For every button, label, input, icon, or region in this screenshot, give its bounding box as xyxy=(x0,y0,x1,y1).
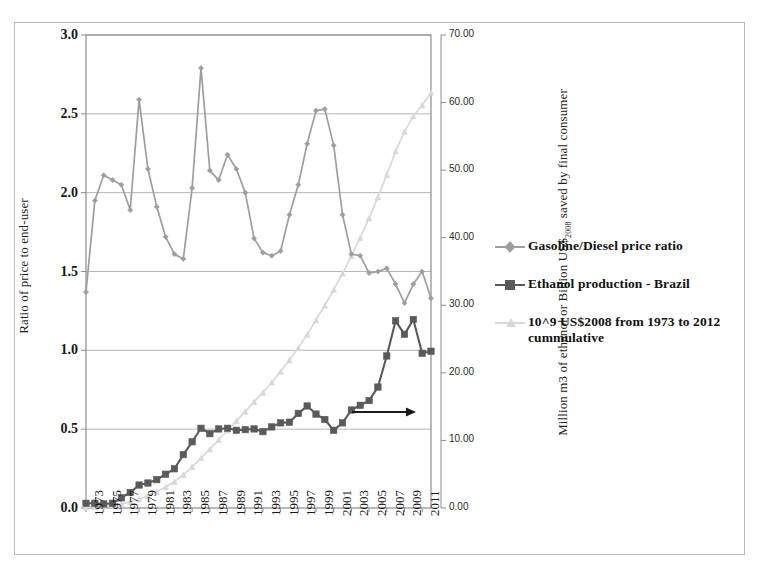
data-point-marker xyxy=(198,425,204,431)
data-point-marker xyxy=(190,185,195,190)
x-axis-tick-label: 1991 xyxy=(250,490,266,516)
legend-marker-shape xyxy=(506,318,516,327)
x-axis-tick-label: 1987 xyxy=(215,490,231,516)
data-point-marker xyxy=(136,97,141,102)
data-point-marker xyxy=(295,410,301,416)
data-point-marker xyxy=(366,397,372,403)
y-axis-left-tick-label: 2.0 xyxy=(38,185,78,201)
data-point-marker xyxy=(366,215,372,221)
y-axis-left-tick-label: 2.5 xyxy=(38,106,78,122)
legend-item[interactable]: 10^9 US$2008 from 1973 to 2012 cummulati… xyxy=(495,314,740,346)
data-point-marker xyxy=(339,420,345,426)
x-axis-tick-label: 1993 xyxy=(268,490,284,516)
data-point-marker xyxy=(286,419,292,425)
x-axis-tick-label: 2005 xyxy=(374,490,390,516)
y-axis-right-tick-label: 40.00 xyxy=(449,231,493,242)
data-point-marker xyxy=(322,416,328,422)
x-axis-tick-label: 2003 xyxy=(356,490,372,516)
data-point-marker xyxy=(428,90,434,96)
data-point-marker xyxy=(428,296,433,301)
data-point-marker xyxy=(304,403,310,409)
data-point-marker xyxy=(287,212,292,217)
data-point-marker xyxy=(428,348,434,354)
y-axis-right-tick-label: 20.00 xyxy=(449,366,493,377)
y-axis-right-tick-label: 60.00 xyxy=(449,96,493,107)
data-point-marker xyxy=(233,427,239,433)
data-point-marker xyxy=(215,426,221,432)
data-point-marker xyxy=(331,143,336,148)
data-point-marker xyxy=(92,198,97,203)
data-point-marker xyxy=(375,384,381,390)
x-axis-tick-label: 2011 xyxy=(427,490,443,516)
data-point-marker xyxy=(401,331,407,337)
legend-marker-icon xyxy=(495,240,525,254)
data-point-marker xyxy=(260,428,266,434)
y-axis-left-tick-label: 0.5 xyxy=(38,421,78,437)
x-axis-tick-label: 2009 xyxy=(409,490,425,516)
data-point-marker xyxy=(198,66,203,71)
legend-marker-icon xyxy=(495,278,525,292)
data-point-marker xyxy=(393,148,399,154)
data-point-marker xyxy=(83,289,88,294)
data-point-marker xyxy=(410,316,416,322)
y-axis-right-tick-label: 0.00 xyxy=(449,501,493,512)
x-axis-tick-label: 1983 xyxy=(179,490,195,516)
x-axis-tick-label: 1977 xyxy=(126,490,142,516)
x-axis-tick-label: 1979 xyxy=(144,490,160,516)
data-point-marker xyxy=(384,353,390,359)
data-point-marker xyxy=(189,439,195,445)
y-axis-left-tick-label: 0.0 xyxy=(38,500,78,516)
data-point-marker xyxy=(277,420,283,426)
x-axis-tick-label: 1985 xyxy=(197,490,213,516)
data-point-marker xyxy=(145,480,151,486)
data-point-marker xyxy=(224,425,230,431)
data-point-marker xyxy=(305,141,310,146)
data-point-marker xyxy=(296,182,301,187)
data-point-marker xyxy=(162,471,168,477)
data-point-marker xyxy=(402,300,407,305)
data-point-marker xyxy=(83,500,89,506)
data-point-marker xyxy=(419,350,425,356)
data-point-marker xyxy=(375,194,381,200)
data-point-marker xyxy=(171,466,177,472)
y-axis-left-tick-label: 1.5 xyxy=(38,264,78,280)
x-axis-tick-label: 2007 xyxy=(392,490,408,516)
legend-marker-shape xyxy=(505,280,515,290)
annotation-arrow-head xyxy=(406,408,416,417)
y-axis-right-tick-label: 70.00 xyxy=(449,28,493,39)
data-point-marker xyxy=(269,424,275,430)
y-axis-right-tick-label: 50.00 xyxy=(449,163,493,174)
y-axis-left-tick-label: 1.0 xyxy=(38,342,78,358)
x-axis-tick-label: 2001 xyxy=(339,490,355,516)
data-point-marker xyxy=(154,204,159,209)
legend-item[interactable]: Gasoline/Diesel price ratio xyxy=(495,238,740,254)
chart-figure: Ratio of price to end-user Million m3 of… xyxy=(0,0,761,576)
data-point-marker xyxy=(313,108,318,113)
legend-marker-icon xyxy=(495,316,525,330)
data-point-marker xyxy=(357,235,363,241)
legend-item-label: Gasoline/Diesel price ratio xyxy=(528,238,683,254)
y-axis-right-tick-label: 10.00 xyxy=(449,433,493,444)
data-point-marker xyxy=(154,476,160,482)
x-axis-tick-label: 1973 xyxy=(91,490,107,516)
data-point-marker xyxy=(145,166,150,171)
data-point-marker xyxy=(128,207,133,212)
data-point-marker xyxy=(136,482,142,488)
legend-marker-shape xyxy=(504,241,515,252)
x-axis-tick-label: 1997 xyxy=(303,490,319,516)
data-point-marker xyxy=(242,426,248,432)
x-axis-tick-label: 1975 xyxy=(109,490,125,516)
y-axis-left-tick-label: 3.0 xyxy=(38,27,78,43)
x-axis-tick-label: 1989 xyxy=(233,490,249,516)
series-line xyxy=(86,92,431,507)
data-point-marker xyxy=(330,427,336,433)
data-point-marker xyxy=(384,172,390,178)
legend-item-label: Ethanol production - Brazil xyxy=(528,276,690,292)
legend-item[interactable]: Ethanol production - Brazil xyxy=(495,276,740,292)
data-point-marker xyxy=(357,402,363,408)
x-axis-tick-label: 1995 xyxy=(286,490,302,516)
y-axis-right-tick-label: 30.00 xyxy=(449,298,493,309)
data-point-marker xyxy=(322,107,327,112)
legend-item-label: 10^9 US$2008 from 1973 to 2012 cummulati… xyxy=(528,314,740,346)
x-axis-tick-label: 1999 xyxy=(321,490,337,516)
